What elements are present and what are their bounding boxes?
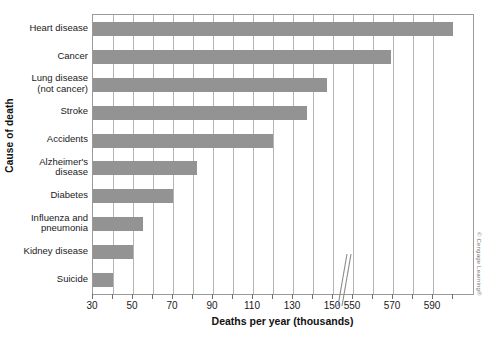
bar: [93, 22, 453, 36]
x-axis-tick-label: 590: [424, 300, 441, 311]
y-axis-category-label-line: Accidents: [2, 134, 88, 145]
y-axis-category-label: Influenza andpneumonia: [2, 213, 88, 234]
x-axis-tick: [232, 294, 233, 299]
bar: [93, 189, 173, 203]
y-axis-category-label: Lung disease(not cancer): [2, 73, 88, 94]
gridline: [433, 15, 434, 294]
bar: [93, 161, 197, 175]
bar: [93, 106, 307, 120]
bar: [93, 134, 273, 148]
gridline: [413, 15, 414, 294]
gridline: [393, 15, 394, 294]
y-axis-category-label-line: Cancer: [2, 51, 88, 62]
bar: [93, 217, 143, 231]
x-axis-title: Deaths per year (thousands): [92, 315, 473, 327]
y-axis-category-label-line: Heart disease: [2, 23, 88, 34]
x-axis-tick: [192, 294, 193, 299]
y-axis-category-label: Suicide: [2, 274, 88, 285]
plot-area: [92, 14, 474, 295]
x-axis-tick-label: 150: [324, 300, 341, 311]
publisher-credit: © Cengage Learning®: [476, 232, 482, 296]
bar: [93, 245, 133, 259]
x-axis-tick-label: 130: [284, 300, 301, 311]
y-axis-category-label: Kidney disease: [2, 246, 88, 257]
x-axis-tick: [452, 294, 453, 299]
y-axis-category-label: Diabetes: [2, 190, 88, 201]
x-axis-tick-label: 70: [166, 300, 177, 311]
x-axis-tick: [332, 294, 333, 299]
y-axis-category-label-line: disease: [2, 167, 88, 178]
y-axis-category-label: Accidents: [2, 134, 88, 145]
x-axis-tick-label: 550: [344, 300, 361, 311]
x-axis-tick: [412, 294, 413, 299]
x-axis-tick: [292, 294, 293, 299]
x-axis-tick-label: 110: [244, 300, 260, 311]
y-axis-category-label: Stroke: [2, 106, 88, 117]
x-axis-tick: [132, 294, 133, 299]
bar: [93, 50, 391, 64]
x-axis-tick: [272, 294, 273, 299]
y-axis-category-label-line: Diabetes: [2, 190, 88, 201]
y-axis-category-label-line: (not cancer): [2, 84, 88, 95]
y-axis-category-label: Heart disease: [2, 23, 88, 34]
y-axis-category-labels: SuicideKidney diseaseInfluenza andpneumo…: [0, 14, 88, 293]
x-axis-tick: [392, 294, 393, 299]
y-axis-category-label-line: Stroke: [2, 106, 88, 117]
x-axis-tick: [372, 294, 373, 299]
x-axis-tick: [152, 294, 153, 299]
x-axis-tick: [92, 294, 93, 299]
x-axis-tick: [432, 294, 433, 299]
x-axis-tick-label: 30: [86, 300, 97, 311]
y-axis-category-label-line: pneumonia: [2, 223, 88, 234]
x-axis-tick-label: 50: [126, 300, 137, 311]
y-axis-category-label-line: Suicide: [2, 274, 88, 285]
bar: [93, 273, 113, 287]
y-axis-category-label-line: Kidney disease: [2, 246, 88, 257]
bar: [93, 78, 327, 92]
y-axis-category-label: Cancer: [2, 51, 88, 62]
x-axis-tick: [352, 294, 353, 299]
x-axis-tick-label: 90: [206, 300, 217, 311]
x-axis-tick-labels: 30507090110130150550570590: [0, 300, 498, 314]
y-axis-category-label: Alzheimer'sdisease: [2, 157, 88, 178]
bar-chart-figure: Cause of death SuicideKidney diseaseInfl…: [0, 0, 498, 341]
x-axis-tick: [172, 294, 173, 299]
x-axis-tick: [212, 294, 213, 299]
x-axis-tick-label: 570: [384, 300, 401, 311]
x-axis-tick: [252, 294, 253, 299]
x-axis-tick: [112, 294, 113, 299]
x-axis-tick: [312, 294, 313, 299]
